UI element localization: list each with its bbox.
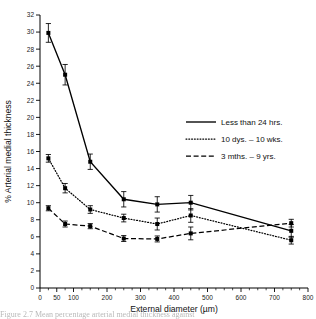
x-tick-label: 200	[102, 294, 113, 301]
y-tick-label: 4	[30, 250, 34, 257]
legend-label: Less than 24 hrs.	[221, 118, 282, 127]
series-line	[48, 208, 291, 239]
x-tick-label: 50	[53, 294, 61, 301]
y-tick-label: 26	[27, 63, 35, 70]
series-line	[48, 158, 291, 240]
data-point	[155, 237, 159, 241]
series-3	[46, 206, 294, 242]
data-point	[289, 229, 293, 233]
data-point	[155, 202, 159, 206]
y-tick-label: 24	[27, 80, 35, 87]
x-tick-label: 300	[135, 294, 146, 301]
y-tick-label: 12	[27, 182, 35, 189]
y-tick-label: 32	[27, 11, 35, 18]
data-point	[46, 206, 50, 210]
series-line	[48, 33, 291, 231]
legend-label: 10 dys. – 10 wks.	[221, 135, 283, 144]
data-point	[155, 222, 159, 226]
data-point	[289, 238, 293, 242]
data-point	[289, 221, 293, 225]
data-point	[88, 160, 92, 164]
series-2	[46, 154, 294, 244]
x-tick-label: 600	[236, 294, 247, 301]
y-axis-title: % Arterial medial thickness	[3, 100, 13, 203]
x-tick-label: 0	[38, 294, 42, 301]
data-point	[63, 73, 67, 77]
y-tick-label: 28	[27, 46, 35, 53]
caption-fragment: Figure 2.7 Mean percentage arterial medi…	[0, 310, 316, 319]
y-tick-label: 8	[30, 216, 34, 223]
data-point	[46, 31, 50, 35]
y-tick-label: 16	[27, 148, 35, 155]
data-point	[122, 197, 126, 201]
y-tick-label: 20	[27, 114, 35, 121]
legend-label: 3 mths. – 9 yrs.	[221, 152, 276, 161]
data-point	[189, 201, 193, 205]
data-point	[63, 222, 67, 226]
data-point	[122, 237, 126, 241]
data-point	[88, 224, 92, 228]
x-tick-label: 500	[202, 294, 213, 301]
data-point	[46, 156, 50, 160]
data-point	[88, 208, 92, 212]
data-point	[189, 213, 193, 217]
series-1	[46, 24, 294, 238]
y-tick-label: 14	[27, 165, 35, 172]
y-tick-label: 18	[27, 131, 35, 138]
y-tick-label: 22	[27, 97, 35, 104]
y-tick-label: 0	[30, 284, 34, 291]
x-tick-label: 800	[303, 294, 314, 301]
y-tick-label: 2	[30, 267, 34, 274]
x-tick-label: 100	[68, 294, 79, 301]
y-tick-label: 10	[27, 199, 35, 206]
data-point	[63, 186, 67, 190]
data-point	[189, 231, 193, 235]
figure-container: 0246810121416182022242628303205010020030…	[0, 0, 316, 319]
x-tick-label: 700	[269, 294, 280, 301]
data-point	[122, 216, 126, 220]
x-tick-label: 400	[169, 294, 180, 301]
arterial-medial-thickness-chart: 0246810121416182022242628303205010020030…	[0, 0, 316, 319]
y-tick-label: 30	[27, 28, 35, 35]
y-tick-label: 6	[30, 233, 34, 240]
